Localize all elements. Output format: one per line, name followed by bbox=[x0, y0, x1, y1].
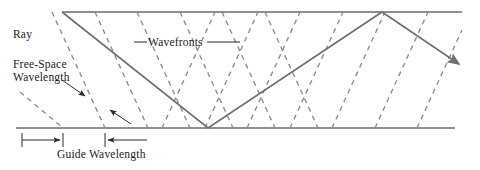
wavefront-line bbox=[290, 12, 343, 128]
wavefront-line bbox=[205, 12, 258, 128]
label-free-space-line2: Wavelength bbox=[13, 71, 70, 83]
ray-exit-segment bbox=[382, 12, 459, 64]
label-free-space-line1: Free-Space bbox=[13, 58, 67, 70]
wavefront-line bbox=[222, 12, 275, 128]
wavefront-line bbox=[332, 12, 385, 128]
wavefront-line bbox=[20, 92, 63, 128]
wavefront-line bbox=[375, 12, 428, 128]
guide-wavelength-dimension bbox=[22, 133, 147, 147]
ray-path bbox=[62, 12, 459, 128]
wavefront-line bbox=[417, 30, 462, 128]
wavefront-line bbox=[95, 12, 148, 128]
label-wavefronts: Wavefronts bbox=[148, 36, 203, 49]
guide-wavelength-angle-arrow bbox=[110, 110, 131, 124]
waveguide-diagram: Ray Free-SpaceWavelength Wavefronts Guid… bbox=[0, 0, 480, 170]
label-guide-wavelength: Guide Wavelength bbox=[57, 148, 146, 161]
label-free-space-wavelength: Free-SpaceWavelength bbox=[13, 58, 70, 84]
diagram-canvas bbox=[0, 0, 480, 170]
label-ray: Ray bbox=[13, 28, 32, 41]
wavefronts-ascending bbox=[162, 12, 462, 128]
wavefront-line bbox=[137, 12, 190, 128]
